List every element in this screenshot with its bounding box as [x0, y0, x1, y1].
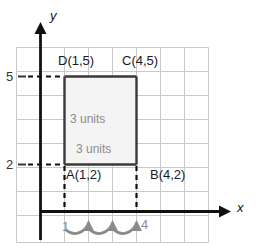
counting-arcs: [66, 228, 134, 234]
arc-end-label: 4: [141, 217, 148, 232]
arc-start-label: 1: [62, 219, 69, 234]
x-axis-arrowhead: [219, 206, 231, 218]
point-label-d: D(1,5): [58, 53, 94, 68]
x-axis-label: x: [237, 200, 244, 215]
y-axis-label: y: [50, 8, 57, 23]
y-tick-marks: [18, 77, 26, 165]
y-axis-arrowhead: [35, 22, 47, 34]
vertical-measurement-label: 3 units: [70, 112, 105, 126]
y-tick-label-2: 2: [6, 157, 13, 172]
y-tick-label-5: 5: [6, 69, 13, 84]
coordinate-plane-svg: [0, 0, 262, 251]
point-label-a: A(1,2): [66, 167, 101, 182]
point-label-b: B(4,2): [150, 167, 185, 182]
coordinate-grid-figure: y x 5 2 D(1,5) C(4,5) A(1,2) B(4,2) 3 un…: [0, 0, 262, 251]
horizontal-measurement-label: 3 units: [76, 142, 111, 156]
point-label-c: C(4,5): [122, 53, 158, 68]
counting-arc-arrowheads: [83, 220, 142, 231]
